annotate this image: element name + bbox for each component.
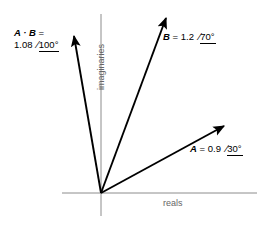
vector-label-ab-line1: A · B = — [14, 27, 59, 39]
equals-sign-a: = — [200, 143, 206, 154]
vector-magnitude-ab: 1.08 — [14, 39, 33, 50]
equals-sign-b: = — [173, 31, 179, 42]
degree-symbol-ab: ° — [55, 39, 59, 50]
vector-angle-ab: 100 — [39, 39, 55, 50]
angle-value-wrapper-ab: 100° — [39, 39, 60, 52]
imaginary-axis-label: imaginaries — [96, 44, 106, 90]
phasor-diagram-figure: imaginaries reals A · B = 1.08 /100° B =… — [0, 0, 276, 225]
degree-symbol-b: ° — [211, 31, 215, 42]
vector-arrow-b — [101, 18, 166, 193]
vector-magnitude-a: 0.9 — [208, 143, 221, 154]
vector-magnitude-b: 1.2 — [181, 31, 194, 42]
degree-symbol-a: ° — [238, 143, 242, 154]
vector-label-b: B = 1.2 /70° — [163, 31, 216, 44]
angle-notation-a: /30° — [224, 143, 243, 156]
angle-notation-ab: /100° — [35, 39, 59, 52]
equals-sign-ab: = — [38, 27, 44, 38]
real-axis-label: reals — [163, 198, 183, 208]
vector-symbol-b: B — [163, 31, 170, 42]
vector-arrow-a — [101, 126, 224, 193]
vector-symbol-a: A — [190, 143, 197, 154]
vector-label-ab-line2: 1.08 /100° — [14, 39, 59, 52]
vector-label-a: A = 0.9 /30° — [190, 143, 243, 156]
angle-notation-b: /70° — [197, 31, 216, 44]
vector-label-ab: A · B = 1.08 /100° — [14, 27, 59, 52]
vector-symbol-ab: A · B — [14, 27, 36, 38]
